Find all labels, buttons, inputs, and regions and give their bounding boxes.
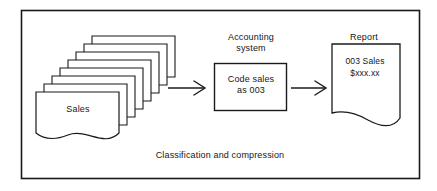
accounting-system-heading-line-1: Accounting — [228, 32, 274, 42]
accounting-system-heading: Accounting system — [210, 32, 292, 55]
classification-compression-diagram: Sales Accounting system Code sales as 00… — [0, 0, 437, 191]
sales-document-stack — [36, 36, 175, 139]
arrow-accounting-to-report — [291, 81, 326, 95]
report-body-line-2: $xxx.xx — [331, 68, 399, 79]
report-heading: Report — [333, 32, 395, 43]
diagram-caption: Classification and compression — [110, 150, 330, 161]
accounting-system-body: Code sales as 003 — [216, 74, 286, 97]
arrow-sales-to-accounting — [168, 81, 205, 95]
accounting-system-body-line-1: Code sales — [228, 74, 275, 84]
sales-stack-label: Sales — [48, 104, 108, 115]
accounting-system-heading-line-2: system — [236, 43, 265, 53]
accounting-system-body-line-2: as 003 — [237, 85, 265, 95]
report-body-line-1: 003 Sales — [331, 56, 399, 67]
sales-sheet-front — [36, 92, 119, 139]
